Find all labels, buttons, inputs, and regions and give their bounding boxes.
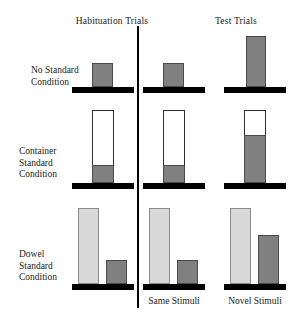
bar-row3-habituation-short <box>106 260 127 284</box>
base-row1-same <box>143 87 205 93</box>
container-fill-row2-novel <box>244 135 266 183</box>
base-row1-novel <box>224 87 286 93</box>
row-label-container-line1: Container <box>19 146 57 158</box>
bottom-label-novel-stimuli: Novel Stimuli <box>217 296 293 306</box>
row-label-container-standard: Container Standard Condition <box>19 146 57 181</box>
stimuli-figure: Habituation Trials Test Trials No Standa… <box>0 0 304 323</box>
bar-row3-same-tall <box>149 208 170 284</box>
row-label-container-line2: Standard <box>19 158 57 170</box>
row-label-dowel-line3: Condition <box>19 272 57 284</box>
bar-row3-novel-tall <box>230 208 251 284</box>
container-fill-row2-same <box>163 165 185 183</box>
base-row1-habituation <box>72 87 134 93</box>
row-label-no-standard-line1: No Standard <box>31 65 79 77</box>
base-row3-novel <box>224 284 286 290</box>
base-row3-habituation <box>72 284 134 290</box>
bar-row3-habituation-tall <box>78 208 99 284</box>
base-row2-habituation <box>72 183 134 189</box>
bar-row1-habituation <box>92 63 113 87</box>
row-label-dowel-line1: Dowel <box>19 249 57 261</box>
bottom-label-same-stimuli: Same Stimuli <box>136 296 212 306</box>
bar-row3-same-short <box>177 260 198 284</box>
bar-row3-novel-short <box>258 235 279 284</box>
bar-row1-same <box>163 63 184 87</box>
base-row3-same <box>143 284 205 290</box>
row-label-dowel-line2: Standard <box>19 261 57 273</box>
container-fill-row2-habituation <box>92 165 114 183</box>
base-row2-novel <box>224 183 286 189</box>
row-label-dowel-standard: Dowel Standard Condition <box>19 249 57 284</box>
column-header-test: Test Trials <box>180 16 292 26</box>
panel-divider <box>137 26 139 308</box>
column-header-habituation: Habituation Trials <box>42 16 182 26</box>
row-label-no-standard: No Standard Condition <box>31 65 79 88</box>
base-row2-same <box>143 183 205 189</box>
bar-row1-novel <box>246 36 266 87</box>
row-label-container-line3: Condition <box>19 169 57 181</box>
